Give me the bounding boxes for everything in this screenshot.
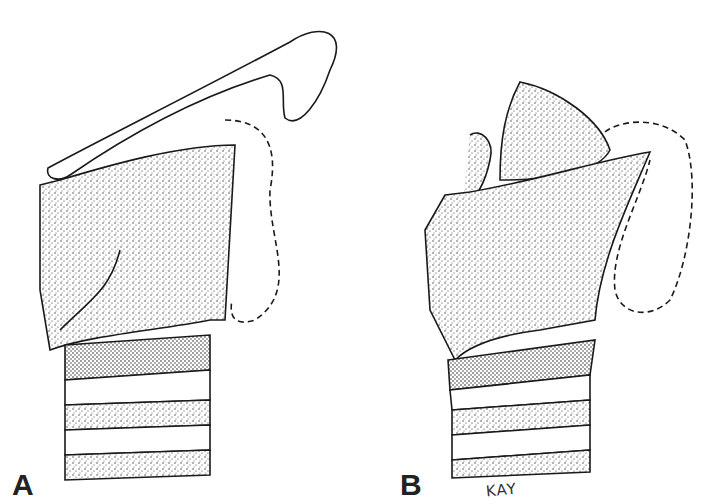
panel-b-drawing: [425, 82, 692, 478]
trachea-a: [65, 335, 210, 480]
trachea-b: [448, 340, 595, 478]
panel-label-b: B: [400, 468, 422, 502]
panel-a-drawing: [40, 31, 336, 480]
panel-label-a: A: [12, 468, 34, 502]
illustration: [0, 0, 714, 504]
artist-signature: KAY: [485, 479, 518, 500]
thyroid-cartilage-b: [425, 152, 650, 360]
